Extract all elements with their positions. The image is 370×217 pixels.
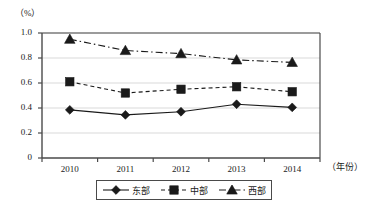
data-point-diamond — [121, 110, 130, 119]
x-axis-tick-label: 2013 — [217, 164, 257, 174]
legend-item-西部[interactable]: 西部 — [218, 184, 266, 197]
line-chart: （%） （年份） 00.20.40.60.81.0 20102011201220… — [0, 0, 370, 217]
y-axis-tick-label: 0 — [10, 152, 32, 162]
data-point-square — [66, 78, 74, 86]
x-axis-tick-label: 2011 — [105, 164, 145, 174]
legend-item-中部[interactable]: 中部 — [160, 184, 208, 197]
legend-marker-triangle-icon — [218, 185, 246, 195]
chart-legend: 东部中部西部 — [96, 180, 272, 200]
data-point-square — [288, 88, 296, 96]
data-point-diamond — [112, 186, 121, 195]
data-point-diamond — [288, 103, 297, 112]
x-axis-unit-label: （年份） — [327, 160, 363, 173]
legend-marker-square-icon — [160, 185, 188, 195]
data-point-diamond — [65, 105, 74, 114]
x-axis-tick-label: 2010 — [50, 164, 90, 174]
legend-marker-diamond-icon — [102, 185, 130, 195]
y-axis-tick-label: 0.8 — [10, 52, 32, 62]
legend-label: 中部 — [190, 184, 208, 197]
legend-label: 东部 — [132, 184, 150, 197]
data-point-square — [170, 186, 178, 194]
y-axis-tick-label: 1.0 — [10, 27, 32, 37]
data-point-square — [232, 83, 240, 91]
legend-item-东部[interactable]: 东部 — [102, 184, 150, 197]
legend-label: 西部 — [248, 184, 266, 197]
data-point-diamond — [177, 107, 186, 116]
data-point-triangle — [176, 48, 187, 57]
y-axis-tick-label: 0.4 — [10, 102, 32, 112]
data-point-square — [121, 89, 129, 97]
y-axis-tick-label: 0.6 — [10, 77, 32, 87]
x-axis-tick-label: 2012 — [161, 164, 201, 174]
y-axis-tick-label: 0.2 — [10, 127, 32, 137]
x-axis-tick-label: 2014 — [272, 164, 312, 174]
data-point-square — [177, 85, 185, 93]
data-point-triangle — [65, 34, 76, 43]
data-point-triangle — [120, 45, 130, 54]
y-axis-unit-label: （%） — [15, 6, 41, 19]
data-point-diamond — [232, 100, 241, 109]
